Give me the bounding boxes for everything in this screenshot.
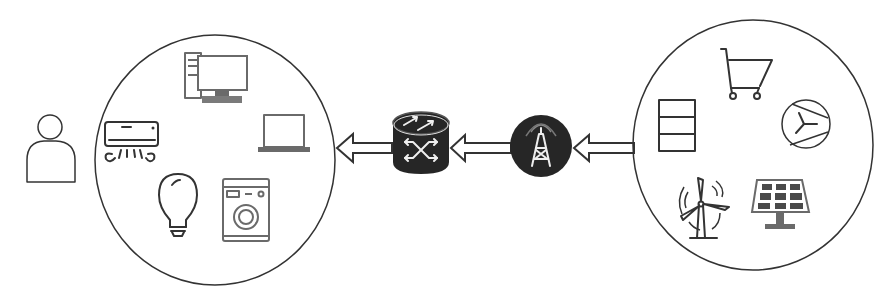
consumer-group <box>95 35 335 285</box>
solar-panel-icon <box>752 180 809 229</box>
laptop-icon <box>258 115 310 152</box>
air-conditioner-icon <box>105 122 158 161</box>
wind-turbine-icon <box>679 178 729 238</box>
turbine-generator-icon <box>782 100 830 148</box>
flow-arrow-router-to-consumers <box>337 134 392 162</box>
washing-machine-icon <box>223 179 269 241</box>
flow-arrow-tower-to-router <box>451 135 511 161</box>
router-icon <box>393 112 449 174</box>
light-bulb-icon <box>159 174 197 236</box>
desktop-computer-icon <box>185 53 247 103</box>
person-icon <box>27 115 75 182</box>
battery-storage-icon <box>659 100 695 151</box>
energy-sources-group <box>633 20 873 270</box>
radio-tower-icon <box>510 115 572 177</box>
shopping-cart-icon <box>721 49 772 99</box>
energy-sources-boundary <box>633 20 873 270</box>
diagram-canvas <box>0 0 893 303</box>
flow-arrow-sources-to-tower <box>574 135 634 161</box>
